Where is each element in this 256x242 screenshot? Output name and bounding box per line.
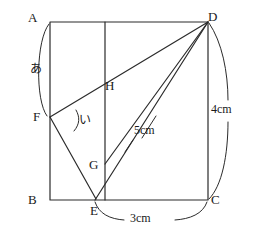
rectangle-abcd [50,22,208,200]
tick-5cm-lower [125,140,133,152]
segment-gd [105,22,208,164]
geometry-figure: A B C D E F G H あ い 5cm 3cm 4cm [0,0,256,242]
vertex-label-g: G [89,158,98,171]
brace-d-to-c-upper [209,23,228,100]
measure-label-4cm: 4cm [211,103,232,115]
segment-ed [95,22,208,200]
brace-e-to-c-left [95,202,124,220]
angle-label-i-hiragana: い [79,114,91,126]
vertex-label-h: H [105,79,114,92]
vertex-label-e: E [90,204,98,217]
brace-e-to-c-right [175,202,207,220]
vertex-label-b: B [28,193,37,206]
vertex-label-c: C [211,193,220,206]
segment-fd [50,22,208,117]
measure-label-3cm: 3cm [130,212,151,224]
measure-label-5cm: 5cm [134,124,155,136]
vertex-label-d: D [208,10,217,23]
vertex-label-a: A [28,11,37,24]
vertex-label-f: F [33,110,40,123]
angle-label-a-hiragana: あ [30,63,42,75]
brace-d-to-c-lower [209,122,228,199]
